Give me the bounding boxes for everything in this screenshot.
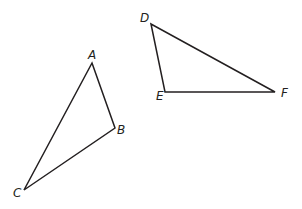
vertex-label-e: E bbox=[156, 89, 164, 103]
triangle-abc bbox=[24, 63, 115, 190]
vertex-label-d: D bbox=[140, 11, 149, 25]
triangle-def bbox=[151, 24, 275, 92]
diagram-canvas: A B C D E F bbox=[0, 0, 302, 209]
vertex-label-a: A bbox=[87, 48, 96, 62]
vertex-label-c: C bbox=[13, 186, 22, 200]
vertex-label-b: B bbox=[117, 123, 125, 137]
vertex-label-f: F bbox=[281, 86, 289, 100]
